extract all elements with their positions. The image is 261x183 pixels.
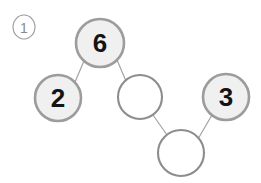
edge-6-to-empty-middle bbox=[117, 60, 126, 81]
node-circle-6[interactable]: 6 bbox=[76, 19, 124, 67]
edge-empty-bottom-to-3 bbox=[198, 115, 212, 139]
puzzle-canvas: 623 1 bbox=[0, 0, 261, 183]
edge-2-to-6 bbox=[75, 61, 84, 82]
item-number-marker: 1 bbox=[13, 15, 35, 39]
node-circle-6-label: 6 bbox=[93, 28, 107, 58]
node-circle-empty-bottom[interactable] bbox=[158, 130, 204, 176]
node-circle-empty-bottom-shape[interactable] bbox=[158, 130, 204, 176]
nodes-group: 623 bbox=[35, 19, 249, 176]
node-graph-diagram: 623 1 bbox=[0, 0, 261, 183]
marker-number-label: 1 bbox=[20, 20, 28, 36]
node-circle-3-label: 3 bbox=[219, 82, 233, 112]
node-circle-2[interactable]: 2 bbox=[35, 75, 81, 121]
node-circle-3[interactable]: 3 bbox=[203, 74, 249, 120]
edge-empty-middle-to-empty-bottom bbox=[153, 115, 167, 135]
node-circle-2-label: 2 bbox=[51, 83, 65, 113]
node-circle-empty-middle-shape[interactable] bbox=[118, 75, 162, 119]
node-circle-empty-middle[interactable] bbox=[118, 75, 162, 119]
